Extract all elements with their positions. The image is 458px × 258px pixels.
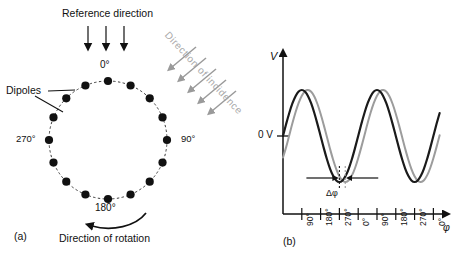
shifted-signal-curve (283, 90, 440, 182)
y-axis-label: V (270, 51, 277, 62)
x-tick-label: 270° (344, 208, 353, 226)
x-tick-label: 180° (400, 208, 409, 226)
x-tick-label: 0° (362, 218, 371, 226)
reference-signal-curve (283, 90, 440, 182)
x-tick-label: 270° (419, 208, 428, 226)
x-tick-label: 90° (381, 213, 390, 226)
x-tick-label: 180° (325, 208, 334, 226)
x-tick-label: 90° (306, 213, 315, 226)
figure-root: Reference direction Dipoles 0° 90° 270° … (0, 0, 458, 258)
panel-b-caption: (b) (283, 236, 296, 247)
x-tick-label: 0° (438, 218, 447, 226)
delta-phi-label: Δφ (326, 189, 338, 198)
zero-volt-label: 0 V (258, 130, 273, 140)
